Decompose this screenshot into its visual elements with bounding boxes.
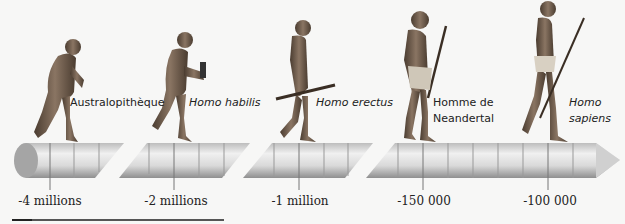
species-label-neanderthal-line2: Neandertal: [433, 112, 494, 125]
timeline-segment-3: [243, 143, 373, 190]
date-label-100000: -100 000: [523, 194, 577, 208]
timeline-segment-1: [14, 143, 124, 190]
homo-habilis-figure: [152, 32, 206, 142]
species-label-australopithecus: Australopithèque: [70, 96, 164, 109]
evolution-diagram: Australopithèque Homo habilis Homo erect…: [0, 0, 625, 224]
date-label-4-millions: -4 millions: [18, 194, 81, 208]
timeline-segment-2: [119, 143, 250, 190]
timeline-segment-4: [366, 143, 620, 190]
homo-erectus-figure: [276, 20, 335, 142]
species-label-homo-sapiens-line1: Homo: [569, 96, 601, 109]
australopithecus-figure: [34, 39, 84, 142]
species-label-neanderthal-line1: Homme de: [433, 96, 493, 109]
species-label-homo-erectus: Homo erectus: [316, 96, 393, 109]
bottom-divider: [12, 219, 224, 221]
date-label-1-million: -1 million: [271, 194, 328, 208]
date-label-2-millions: -2 millions: [144, 194, 207, 208]
timeline-graphic: [0, 0, 625, 224]
date-label-150000: -150 000: [397, 194, 451, 208]
species-label-homo-habilis: Homo habilis: [189, 96, 261, 109]
species-label-homo-sapiens-line2: sapiens: [569, 112, 611, 125]
